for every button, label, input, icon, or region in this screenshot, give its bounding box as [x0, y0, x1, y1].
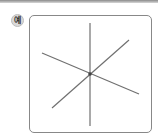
intersection-point: [88, 72, 92, 76]
lines-diagram: [0, 0, 158, 138]
